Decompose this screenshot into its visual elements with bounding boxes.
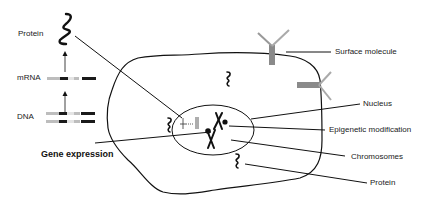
gene-expression-leader [95,132,211,143]
cell-membrane [107,53,322,194]
label-surface-molecule: Surface molecule [335,48,397,56]
label-protein-right: Protein [370,179,395,187]
mrna-strand [47,77,96,80]
surface-molecule-receptor-top [258,30,289,65]
protein-icon-cytoplasm [227,72,230,86]
label-protein-left: Protein [18,30,43,38]
arrow-dna-to-mrna [63,91,68,112]
epigenetic-leader [229,126,325,130]
label-dna: DNA [17,113,34,121]
protein-icon-lower [236,154,239,168]
label-nucleus: Nucleus [363,100,392,108]
gene-markers [180,117,198,129]
dna-strand [46,112,95,123]
protein-icon-near-nucleus [168,118,171,132]
chromosome-bottom [206,129,215,148]
chromosome-top [214,113,227,129]
protein-icon-left [60,14,71,44]
protein-leader [245,164,367,183]
arrow-mrna-to-protein [63,51,68,72]
label-gene-expression: Gene expression [41,150,114,159]
label-epigenetic-modification: Epigenetic modification [329,126,411,134]
nucleus-leader [251,104,360,119]
chromosomes-leader [231,140,345,156]
label-chromosomes: Chromosomes [351,153,403,161]
label-mrna: mRNA [17,74,41,82]
surface-molecule-receptor-right [297,72,331,100]
